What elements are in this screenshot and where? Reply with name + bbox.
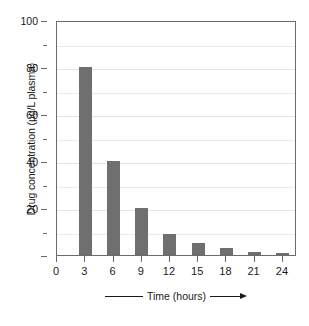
x-tick-label: 12 xyxy=(156,266,182,277)
x-axis-title-label: Time (hours) xyxy=(147,290,206,302)
x-tick xyxy=(113,256,114,262)
x-tick-label: 18 xyxy=(212,266,238,277)
x-tick-label: 9 xyxy=(128,266,154,277)
x-tick-label: 0 xyxy=(43,266,69,277)
x-tick xyxy=(169,256,170,262)
x-tick xyxy=(225,256,226,262)
x-tick xyxy=(84,256,85,262)
x-tick xyxy=(254,256,255,262)
x-tick-label: 24 xyxy=(269,266,295,277)
drug-concentration-bar-chart: Drug concentration (µg/L plasma) 2040608… xyxy=(0,0,309,326)
x-axis-title: Time (hours) xyxy=(56,290,296,302)
arrow-right-icon xyxy=(240,293,247,299)
x-tick xyxy=(56,256,57,262)
x-tick xyxy=(282,256,283,262)
x-axis: 03691215182124 xyxy=(0,0,309,326)
x-axis-title-rule-left xyxy=(105,296,143,297)
x-tick xyxy=(197,256,198,262)
x-tick-label: 21 xyxy=(241,266,267,277)
x-tick-label: 6 xyxy=(100,266,126,277)
x-tick xyxy=(141,256,142,262)
x-tick-label: 15 xyxy=(184,266,210,277)
x-tick-label: 3 xyxy=(71,266,97,277)
x-axis-title-rule-right xyxy=(210,296,240,297)
